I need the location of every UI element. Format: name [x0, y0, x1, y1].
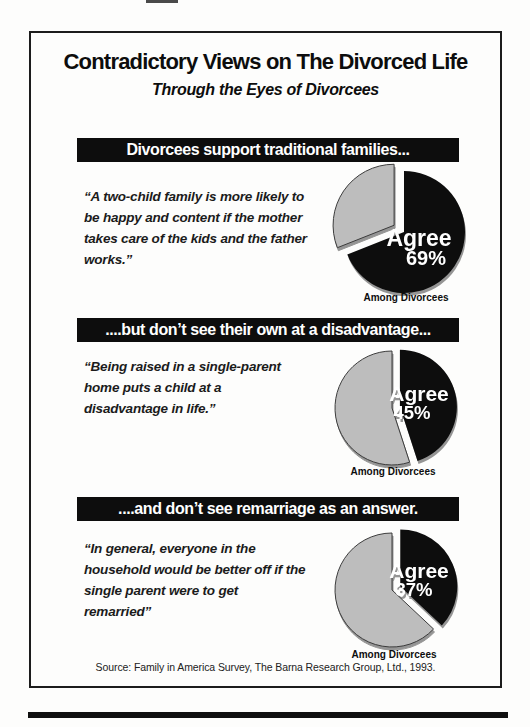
pie-agree-pct: 45%	[393, 402, 430, 423]
poster-subtitle: Through the Eyes of Divorcees	[29, 81, 502, 99]
pie-slice-other	[333, 164, 394, 247]
bottom-rule	[28, 712, 508, 718]
poster-page: Contradictory Views on The Divorced Life…	[0, 0, 530, 727]
poster-title: Contradictory Views on The Divorced Life	[29, 49, 502, 75]
section-3-pie-caption: Among Divorcees	[351, 649, 436, 660]
top-crop-mark	[146, 0, 178, 3]
pie-agree-pct: 69%	[406, 247, 446, 269]
section-1-quote: “A two-child family is more likely to be…	[84, 186, 339, 270]
section-1-pie-caption: Among Divorcees	[363, 292, 448, 303]
source-line: Source: Family in America Survey, The Ba…	[29, 661, 502, 673]
pie-agree-pct: 37%	[395, 579, 432, 600]
section-2-pie-caption: Among Divorcees	[350, 466, 435, 477]
